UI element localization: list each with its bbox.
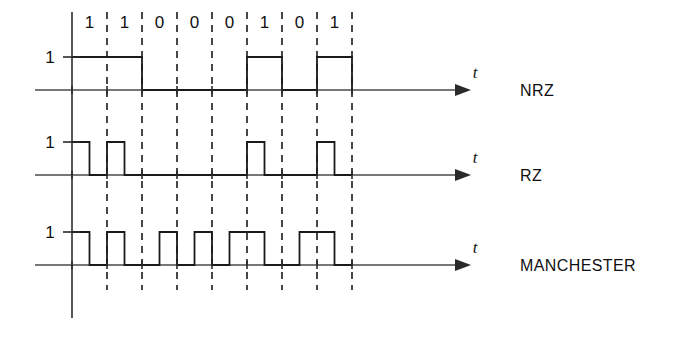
manchester-scheme-label: MANCHESTER — [520, 257, 636, 274]
rz-scheme-label: RZ — [520, 167, 542, 184]
manchester-axis-arrow-icon — [455, 259, 471, 271]
rz-level-label: 1 — [45, 133, 54, 152]
nrz-axis-arrow-icon — [455, 84, 471, 96]
bit-label: 1 — [120, 13, 129, 32]
bit-label: 0 — [190, 13, 199, 32]
line-coding-diagram: 11000101 1 t NRZ 1 t RZ 1 t MANCHESTER — [0, 0, 673, 351]
manchester-axis-variable: t — [473, 238, 479, 257]
rz-axis-arrow-icon — [455, 169, 471, 181]
bit-label: 1 — [330, 13, 339, 32]
figure-canvas: 11000101 1 t NRZ 1 t RZ 1 t MANCHESTER — [0, 0, 673, 351]
rz-axis-variable: t — [473, 148, 479, 167]
bit-label: 0 — [295, 13, 304, 32]
bit-label: 0 — [155, 13, 164, 32]
bit-label: 1 — [260, 13, 269, 32]
bit-label: 1 — [85, 13, 94, 32]
nrz-axis-variable: t — [473, 63, 479, 82]
row-manchester: 1 t MANCHESTER — [35, 223, 636, 274]
row-rz: 1 t RZ — [35, 133, 542, 184]
nrz-scheme-label: NRZ — [520, 82, 554, 99]
manchester-waveform — [72, 232, 352, 265]
manchester-level-label: 1 — [45, 223, 54, 242]
nrz-waveform — [72, 57, 352, 90]
nrz-level-label: 1 — [45, 48, 54, 67]
row-nrz: 1 t NRZ — [35, 48, 554, 99]
bit-label: 0 — [225, 13, 234, 32]
